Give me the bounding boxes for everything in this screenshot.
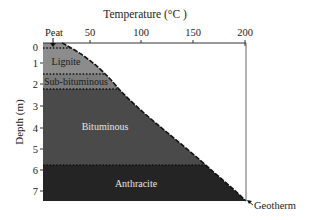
geotherm-arrow-icon — [247, 200, 253, 205]
y-axis-title: Depth (m) — [13, 99, 26, 145]
y-tick-4: 4 — [33, 123, 39, 134]
y-tick-6: 6 — [33, 165, 38, 176]
y-ticks — [40, 63, 43, 191]
layer-bituminous — [43, 89, 253, 165]
x-axis-title: Temperature (°C ) — [103, 8, 187, 21]
y-tick-3: 3 — [33, 101, 38, 112]
x-tick-200: 200 — [237, 27, 253, 38]
peat-label: Peat — [45, 27, 63, 38]
label-anthracite: Anthracite — [115, 178, 158, 189]
geotherm-label: Geotherm — [254, 200, 296, 211]
x-tick-50: 50 — [85, 27, 96, 38]
label-sub-bituminous: Sub-bituminous — [44, 76, 108, 87]
y-tick-7: 7 — [33, 186, 38, 197]
label-bituminous: Bituminous — [82, 121, 129, 132]
label-lignite: Lignite — [52, 56, 81, 67]
x-tick-100: 100 — [133, 27, 149, 38]
y-tick-0: 0 — [33, 42, 38, 53]
coal-rank-diagram: Temperature (°C ) 50 100 150 200 Peat — [0, 0, 313, 220]
y-tick-2: 2 — [33, 79, 38, 90]
x-tick-150: 150 — [185, 27, 201, 38]
y-tick-1: 1 — [33, 58, 38, 69]
y-tick-5: 5 — [33, 144, 38, 155]
